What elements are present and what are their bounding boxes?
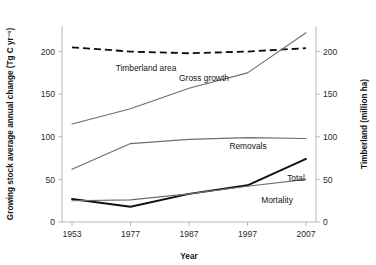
- series-label-total: Total: [287, 173, 305, 183]
- y2-axis-title: Timberland (million ha): [360, 79, 369, 169]
- x-tick-label: 1953: [62, 229, 81, 239]
- left-axis-ticks: 050100150200: [41, 47, 62, 227]
- x-axis-title: Year: [180, 252, 198, 261]
- series-label-timberland-area: Timberland area: [116, 63, 177, 73]
- x-axis-ticks: 19531977198719972007: [62, 222, 315, 239]
- right-tick-label: 0: [323, 217, 328, 227]
- series-label-mortality: Mortality: [261, 195, 293, 205]
- series-line-timberland-area: [72, 47, 306, 53]
- right-tick-label: 150: [323, 89, 338, 99]
- series-annotations: Timberland areaGross growthRemovalsTotal…: [116, 63, 305, 205]
- series-layer: [72, 33, 306, 207]
- series-label-gross-growth: Gross growth: [179, 73, 229, 83]
- left-tick-label: 50: [45, 175, 55, 185]
- y-axis-title: Growing stock average annual change (Tg …: [6, 28, 15, 221]
- x-tick-label: 1977: [121, 229, 140, 239]
- left-tick-label: 100: [41, 132, 56, 142]
- right-axis-ticks: 050100150200: [316, 47, 338, 227]
- x-tick-label: 1997: [238, 229, 257, 239]
- left-tick-label: 200: [41, 47, 56, 57]
- right-tick-label: 200: [323, 47, 338, 57]
- series-line-removals: [72, 138, 306, 170]
- left-tick-label: 0: [50, 217, 55, 227]
- right-tick-label: 100: [323, 132, 338, 142]
- left-tick-label: 150: [41, 89, 56, 99]
- series-label-removals: Removals: [229, 141, 266, 151]
- chart-container: 050100150200 050100150200 19531977198719…: [0, 0, 376, 265]
- x-tick-label: 1987: [179, 229, 198, 239]
- x-tick-label: 2007: [296, 229, 315, 239]
- right-tick-label: 50: [323, 175, 333, 185]
- line-chart: 050100150200 050100150200 19531977198719…: [0, 0, 376, 265]
